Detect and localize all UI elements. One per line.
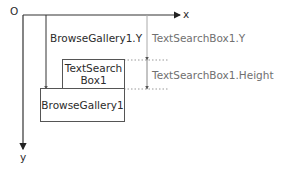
- y-axis-label: y: [20, 151, 26, 163]
- origin-label: O: [10, 5, 18, 17]
- text-search-box-y-label: TextSearchBox1.Y: [152, 32, 245, 44]
- browse-gallery-y-label: BrowseGallery1.Y: [50, 32, 142, 44]
- browse-gallery-box: BrowseGallery1: [40, 88, 125, 122]
- browse-gallery-label: BrowseGallery1: [41, 99, 123, 112]
- text-search-box-label-line1: TextSearch: [65, 62, 122, 75]
- text-search-box-label-line2: Box1: [80, 74, 106, 87]
- x-axis-label: x: [183, 8, 189, 20]
- text-search-box: TextSearch Box1: [62, 59, 125, 89]
- text-search-box-height-label: TextSearchBox1.Height: [152, 69, 274, 81]
